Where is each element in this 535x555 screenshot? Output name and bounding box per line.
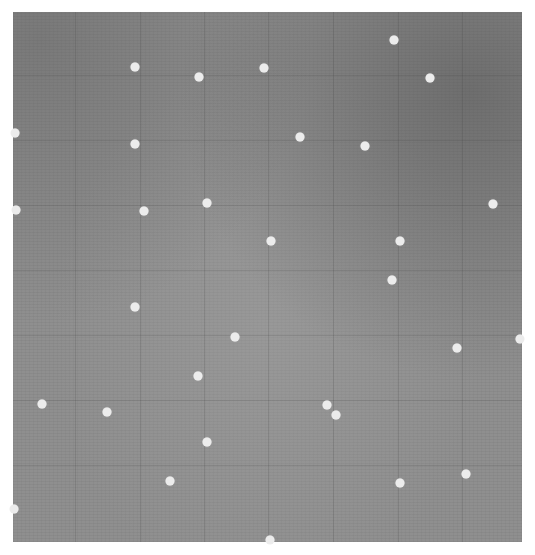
white-dot	[266, 536, 275, 545]
white-dot	[103, 408, 112, 417]
white-dot	[332, 411, 341, 420]
white-dot	[267, 237, 276, 246]
white-dot	[131, 63, 140, 72]
white-dot	[10, 505, 19, 514]
white-dot	[38, 400, 47, 409]
white-dot	[131, 303, 140, 312]
grid-line-vertical	[140, 12, 141, 542]
grid-line-vertical	[462, 12, 463, 542]
white-dot	[195, 73, 204, 82]
textured-surface-photo	[13, 12, 522, 542]
grid-line-vertical	[75, 12, 76, 542]
white-dot	[166, 477, 175, 486]
grid-line-horizontal	[13, 400, 522, 401]
grid-line-vertical	[333, 12, 334, 542]
white-dot	[323, 401, 332, 410]
grid-line-horizontal	[13, 335, 522, 336]
white-dot	[11, 129, 20, 138]
white-dot	[462, 470, 471, 479]
white-dot	[203, 199, 212, 208]
grid-line-horizontal	[13, 140, 522, 141]
white-dot	[140, 207, 149, 216]
white-dot	[260, 64, 269, 73]
grid-line-vertical	[398, 12, 399, 542]
white-dot	[396, 237, 405, 246]
white-dot	[131, 140, 140, 149]
white-dot	[12, 206, 21, 215]
grid-line-vertical	[204, 12, 205, 542]
white-dot	[516, 335, 525, 344]
white-dot	[194, 372, 203, 381]
white-dot	[489, 200, 498, 209]
grid-line-vertical	[268, 12, 269, 542]
white-dot	[361, 142, 370, 151]
grid-line-horizontal	[13, 465, 522, 466]
white-dot	[390, 36, 399, 45]
grid-line-horizontal	[13, 75, 522, 76]
white-dot	[296, 133, 305, 142]
white-dot	[396, 479, 405, 488]
grid-line-horizontal	[13, 205, 522, 206]
white-dot	[388, 276, 397, 285]
white-dot	[453, 344, 462, 353]
white-dot	[231, 333, 240, 342]
white-dot	[426, 74, 435, 83]
white-dot	[203, 438, 212, 447]
grid-line-horizontal	[13, 270, 522, 271]
